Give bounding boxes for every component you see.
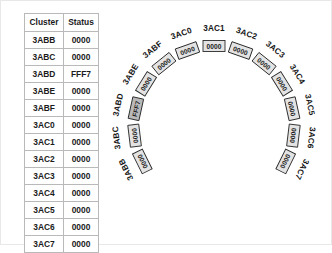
ring-segment[interactable]: 00003ABB xyxy=(117,149,152,182)
table-row: 3ABE0000 xyxy=(25,83,99,100)
table-row: 3ABDFFF7 xyxy=(25,66,99,83)
cluster-ring-diagram: 00003ABB00003ABCFFF73ABD00003ABE00003ABF… xyxy=(99,1,332,246)
cell-status: 0000 xyxy=(64,168,99,185)
ring-segment[interactable]: 00003AC0 xyxy=(170,26,200,60)
table-row: 3ABF0000 xyxy=(25,100,99,117)
segment-cluster-label: 3ABE xyxy=(121,62,141,86)
cell-cluster: 3AC4 xyxy=(25,185,64,202)
table-row: 3AC00000 xyxy=(25,117,99,134)
ring-segment[interactable]: 00003ABF xyxy=(141,39,176,75)
ring-segment[interactable]: 00003AC7 xyxy=(276,149,311,181)
segment-cluster-label: 3AC5 xyxy=(303,93,317,116)
cell-status: 0000 xyxy=(64,83,99,100)
ring-segment[interactable]: 00003AC6 xyxy=(287,124,317,149)
table-row: 3AC20000 xyxy=(25,151,99,168)
ring-segment[interactable]: FFF73ABD xyxy=(111,93,143,122)
table-body: 3ABB00003ABC00003ABDFFF73ABE00003ABF0000… xyxy=(25,32,99,253)
cell-status: 0000 xyxy=(64,219,99,236)
cell-cluster: 3AC0 xyxy=(25,117,64,134)
ring-segment[interactable]: 00003ABC xyxy=(111,124,142,150)
ring-segment[interactable]: 00003AC5 xyxy=(284,93,316,121)
cell-cluster: 3AC2 xyxy=(25,151,64,168)
cell-cluster: 3AC7 xyxy=(25,236,64,253)
table-row: 3AC60000 xyxy=(25,219,99,236)
cell-status: 0000 xyxy=(64,100,99,117)
segment-cluster-label: 3AC1 xyxy=(203,24,225,33)
table-row: 3ABB0000 xyxy=(25,32,99,49)
cell-cluster: 3ABB xyxy=(25,32,64,49)
table-header-row: Cluster Status xyxy=(25,14,99,32)
table-row: 3AC50000 xyxy=(25,202,99,219)
cluster-status-table: Cluster Status 3ABB00003ABC00003ABDFFF73… xyxy=(24,13,99,253)
ring-svg-canvas: 00003ABB00003ABCFFF73ABD00003ABE00003ABF… xyxy=(99,1,332,246)
segment-cluster-label: 3ABC xyxy=(111,126,123,150)
cell-cluster: 3ABC xyxy=(25,49,64,66)
ring-segment[interactable]: 00003AC3 xyxy=(252,39,287,75)
cell-status: 0000 xyxy=(64,202,99,219)
cell-cluster: 3AC5 xyxy=(25,202,64,219)
segment-cluster-label: 3AC0 xyxy=(170,26,194,42)
ring-segment[interactable]: 00003ABE xyxy=(121,62,157,96)
cell-status: 0000 xyxy=(64,117,99,134)
segment-cluster-label: 3AC7 xyxy=(293,158,311,182)
segment-cluster-label: 3ABD xyxy=(111,93,125,117)
table-row: 3AC10000 xyxy=(25,134,99,151)
column-header-status: Status xyxy=(64,14,99,32)
column-header-cluster: Cluster xyxy=(25,14,64,32)
cell-cluster: 3ABF xyxy=(25,100,64,117)
segment-cluster-label: 3AC2 xyxy=(235,26,259,42)
segment-cluster-label: 3ABF xyxy=(141,39,164,60)
ring-segment[interactable]: 00003AC2 xyxy=(228,26,258,60)
cell-status: 0000 xyxy=(64,185,99,202)
cell-cluster: 3ABD xyxy=(25,66,64,83)
segment-cluster-label: 3AC3 xyxy=(264,39,287,60)
ring-segment[interactable]: 00003AC1 xyxy=(203,24,225,52)
cell-cluster: 3ABE xyxy=(25,83,64,100)
cell-cluster: 3AC1 xyxy=(25,134,64,151)
segment-cluster-label: 3AC6 xyxy=(305,126,317,149)
cell-status: 0000 xyxy=(64,49,99,66)
ring-segment[interactable]: 00003AC4 xyxy=(271,63,306,97)
segment-cluster-label: 3ABB xyxy=(117,157,135,182)
table-row: 3AC40000 xyxy=(25,185,99,202)
cell-status: 0000 xyxy=(64,151,99,168)
table-row: 3ABC0000 xyxy=(25,49,99,66)
table-row: 3AC70000 xyxy=(25,236,99,253)
cell-status: FFF7 xyxy=(64,66,99,83)
cell-cluster: 3AC6 xyxy=(25,219,64,236)
cell-status: 0000 xyxy=(64,32,99,49)
cell-status: 0000 xyxy=(64,134,99,151)
cell-status: 0000 xyxy=(64,236,99,253)
segment-cluster-label: 3AC4 xyxy=(288,63,307,86)
segment-status-value: 0000 xyxy=(206,43,221,50)
cell-cluster: 3AC3 xyxy=(25,168,64,185)
ring-center-watermark xyxy=(177,87,257,111)
table-row: 3AC30000 xyxy=(25,168,99,185)
